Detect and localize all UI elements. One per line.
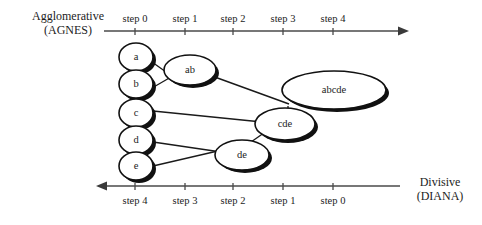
agglomerative-title: Agglomerative (AGNES) (32, 9, 104, 37)
link-e-de (153, 150, 222, 166)
link-c-cde (153, 111, 262, 122)
node-label: cde (278, 118, 293, 129)
clustering-diagram-canvas: step 0 step 1 step 2 step 3 step 4 Agglo… (0, 0, 482, 225)
node-label: abcde (322, 84, 347, 95)
node-label: ab (185, 64, 195, 75)
agglomerative-title-line1: Agglomerative (32, 9, 104, 23)
bottom-axis-arrow-icon (96, 182, 107, 191)
node-label: a (134, 51, 139, 62)
divisive-title: Divisive (DIANA) (417, 175, 464, 203)
node-e[interactable]: e (119, 152, 156, 183)
node-cde[interactable]: cde (255, 108, 318, 143)
node-label: c (134, 107, 139, 118)
top-axis-tick-label: step 2 (221, 13, 246, 24)
bottom-axis-tick-label: step 2 (221, 195, 246, 206)
node-de[interactable]: de (215, 140, 272, 173)
link-d-de (153, 142, 221, 152)
top-axis-tick-label: step 3 (271, 13, 296, 24)
top-axis-tick-label: step 4 (321, 13, 347, 24)
bottom-axis-tick-label: step 3 (173, 195, 198, 206)
divisive-title-line1: Divisive (420, 175, 461, 189)
node-b[interactable]: b (119, 70, 156, 101)
bottom-axis-tick-label: step 0 (321, 195, 346, 206)
node-label: d (133, 134, 139, 145)
node-ab[interactable]: ab (164, 55, 219, 88)
bottom-axis-tick-label: step 4 (123, 195, 149, 206)
divisive-title-line2: (DIANA) (417, 189, 464, 203)
top-axis: step 0 step 1 step 2 step 3 step 4 (104, 13, 409, 36)
link-ab-abcde (212, 76, 289, 104)
agnes-diana-clustering-figure: step 0 step 1 step 2 step 3 step 4 Agglo… (0, 0, 482, 225)
agglomerative-title-line2: (AGNES) (44, 23, 92, 37)
node-label: de (237, 149, 247, 160)
top-axis-tick-label: step 0 (123, 13, 148, 24)
bottom-axis-tick-label: step 1 (271, 195, 296, 206)
top-axis-arrow-icon (398, 27, 409, 36)
node-label: e (134, 160, 139, 171)
node-label: b (133, 78, 138, 89)
top-axis-tick-label: step 1 (173, 13, 198, 24)
bottom-axis: step 4 step 3 step 2 step 1 step 0 (96, 182, 400, 207)
cluster-nodes: a b c d e (119, 43, 389, 183)
node-abcde[interactable]: abcde (282, 71, 389, 112)
